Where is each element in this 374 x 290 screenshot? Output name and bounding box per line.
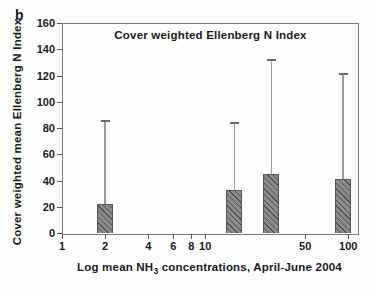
bar [335,179,351,233]
x-tick-mark [305,234,306,239]
y-tick-label: 120 [19,70,55,82]
error-bar-line [104,121,106,204]
error-bar-cap [230,122,239,124]
x-axis-label-prefix: Log mean NH [77,261,153,273]
bar [226,190,242,233]
error-bar-line [234,123,236,190]
y-tick-mark [57,102,62,103]
x-axis-label: Log mean NH3 concentrations, April-June … [52,261,367,276]
x-tick-mark [148,234,149,239]
y-tick-label: 40 [19,175,55,187]
y-tick-mark [57,76,62,77]
y-tick-label: 80 [19,122,55,134]
x-tick-label: 50 [290,240,320,252]
y-tick-label: 20 [19,201,55,213]
y-tick-mark [57,207,62,208]
error-bar-cap [101,120,110,122]
x-tick-mark [105,234,106,239]
x-tick-mark [191,234,192,239]
y-tick-label: 140 [19,43,55,55]
y-tick-mark [57,154,62,155]
x-axis-label-suffix: concentrations, April-June 2004 [158,261,342,273]
x-tick-label: 2 [90,240,120,252]
x-tick-mark [173,234,174,239]
error-bar-line [271,60,273,174]
x-tick-label: 1 [47,240,77,252]
y-tick-label: 160 [19,17,55,29]
chart-title: Cover weighted Ellenberg N Index [63,29,358,41]
x-tick-mark [205,234,206,239]
y-tick-mark [57,128,62,129]
error-bar-cap [339,73,348,75]
x-tick-label: 10 [190,240,220,252]
figure-panel-b: b Cover weighted mean Ellenberg N Index … [0,0,374,290]
y-tick-mark [57,49,62,50]
x-tick-mark [62,234,63,239]
bar [263,174,279,233]
y-tick-label: 100 [19,96,55,108]
x-tick-mark [348,234,349,239]
y-tick-label: 60 [19,148,55,160]
error-bar-line [342,74,344,179]
y-tick-label: 0 [19,227,55,239]
y-tick-mark [57,181,62,182]
x-tick-label: 100 [333,240,363,252]
y-tick-mark [57,23,62,24]
bar [97,204,113,233]
error-bar-cap [267,59,276,61]
